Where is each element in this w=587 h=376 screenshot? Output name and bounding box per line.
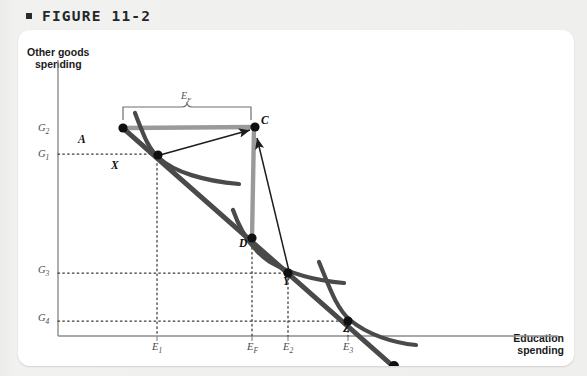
point-label-D: D [239,237,247,249]
y-tick-G2: G2 [38,122,49,136]
figure-header: FIGURE 11-2 [26,8,151,24]
dotted-guide-lines [58,154,348,336]
point-label-Y: Y [283,275,290,287]
point-label-C: C [261,114,269,126]
x-tick-E2: E2 [283,341,293,355]
plot-area [58,60,558,366]
point-label-Z: Z [343,322,350,334]
point-D [247,233,256,242]
x-tick-E3: E3 [343,341,353,355]
y-tick-G1: G1 [38,148,49,162]
indifference-curve-X [135,113,239,184]
y-tick-G3: G3 [38,264,49,278]
indifference-curve-Z [319,262,416,345]
point-label-X: X [111,159,119,171]
figure-number-label: FIGURE 11-2 [42,8,151,24]
arrow-X-to-C [160,130,250,155]
x-tick-EF: EF [247,341,258,355]
transition-arrows [160,130,289,271]
figure-panel: Other goods spending Education spending [18,30,574,366]
grant-vertical-segment [252,128,254,239]
y-tick-G4: G4 [38,312,49,326]
point-A [118,123,127,132]
square-bullet-icon [26,13,32,19]
point-label-A: A [78,133,86,145]
grant-bracket [123,102,251,120]
grant-bracket-label: EF [181,90,191,104]
x-tick-E1: E1 [152,341,162,355]
indifference-curves [135,113,416,345]
figure-root: FIGURE 11-2 Other goods spending Educati… [0,0,587,376]
point-C [250,122,259,131]
point-X [153,150,162,159]
point-label-B: B [390,365,398,366]
chart-svg [18,30,574,366]
